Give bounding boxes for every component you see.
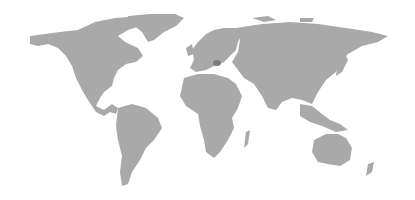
greenland [128,14,184,42]
madagascar [244,130,250,148]
uk [186,44,194,56]
north-america [30,16,150,116]
asia [232,22,388,110]
world-map [0,0,415,200]
africa [180,74,242,158]
arctic-islands [252,16,314,22]
highlighted-country-romania[interactable] [213,60,221,66]
continents [30,14,388,186]
southeast-asia [300,104,348,132]
new-zealand [366,162,374,176]
south-america [116,104,162,186]
australia [312,134,352,166]
